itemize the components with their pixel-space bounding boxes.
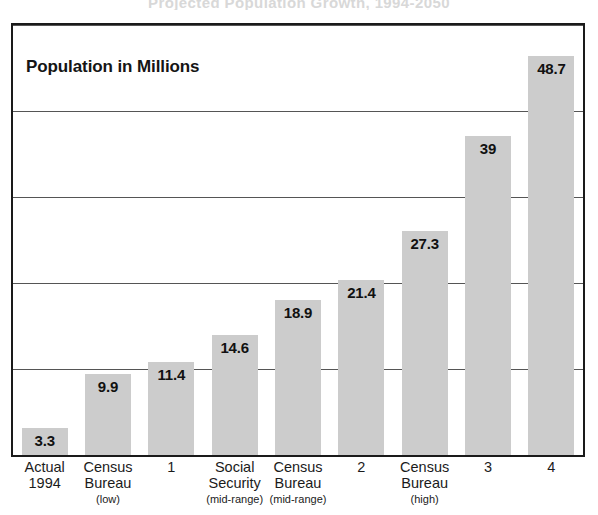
bar[interactable]: 3.3 bbox=[22, 428, 68, 455]
bar-value-label: 21.4 bbox=[338, 284, 384, 301]
bar-value-label: 18.9 bbox=[275, 304, 321, 321]
bar-value-label: 48.7 bbox=[528, 60, 574, 77]
category-label-qualifier: (low) bbox=[70, 493, 145, 505]
bar-value-label: 27.3 bbox=[402, 235, 448, 252]
gridline-5 bbox=[13, 25, 583, 26]
bar-value-label: 14.6 bbox=[212, 339, 258, 356]
bar-chart-figure: 3.39.911.414.618.921.427.33948.7 Populat… bbox=[0, 0, 598, 515]
category-label-line2: Bureau bbox=[70, 475, 145, 491]
category-label-line2: Bureau bbox=[387, 475, 462, 491]
gridline-4 bbox=[13, 111, 583, 112]
bar[interactable]: 48.7 bbox=[528, 56, 574, 455]
bar-value-label: 11.4 bbox=[148, 366, 194, 383]
bar[interactable]: 11.4 bbox=[148, 362, 194, 455]
plot-area: 3.39.911.414.618.921.427.33948.7 bbox=[13, 25, 583, 455]
category-label-line2: Bureau bbox=[260, 475, 335, 491]
category-label: 4 bbox=[514, 459, 589, 475]
category-label-qualifier: (high) bbox=[387, 493, 462, 505]
bar[interactable]: 21.4 bbox=[338, 280, 384, 455]
bar[interactable]: 14.6 bbox=[212, 335, 258, 455]
bar[interactable]: 9.9 bbox=[85, 374, 131, 455]
category-label-qualifier: (mid-range) bbox=[260, 493, 335, 505]
bar-value-label: 3.3 bbox=[22, 432, 68, 449]
bar-value-label: 9.9 bbox=[85, 378, 131, 395]
bar[interactable]: 27.3 bbox=[402, 231, 448, 455]
bar[interactable]: 18.9 bbox=[275, 300, 321, 455]
bar-value-label: 39 bbox=[465, 140, 511, 157]
bar[interactable]: 39 bbox=[465, 136, 511, 455]
category-axis: Actual1994CensusBureau(low)1SocialSecuri… bbox=[13, 459, 583, 511]
chart-title: Population in Millions bbox=[26, 57, 199, 77]
category-label-line1: 4 bbox=[514, 459, 589, 475]
